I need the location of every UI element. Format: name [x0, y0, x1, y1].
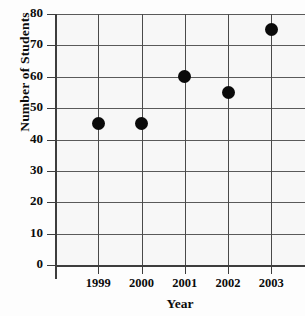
y-tick-label: 20	[3, 193, 43, 209]
data-point	[222, 86, 235, 99]
y-tick-label: 60	[3, 68, 43, 84]
scatter-plot-figure: Number of Students Year 0102030405060708…	[0, 0, 305, 316]
gridline-horizontal	[55, 45, 305, 46]
x-tick-label: 2002	[205, 276, 251, 291]
x-axis-title: Year	[55, 296, 305, 312]
y-tick-mark	[47, 108, 55, 109]
y-tick-mark	[47, 45, 55, 46]
y-tick-label: 10	[3, 225, 43, 241]
gridline-horizontal	[55, 140, 305, 141]
plot-area	[55, 14, 305, 265]
gridline-horizontal	[55, 108, 305, 109]
y-axis-line	[55, 14, 57, 279]
gridline-horizontal	[55, 234, 305, 235]
data-point	[92, 117, 105, 130]
data-point	[265, 23, 278, 36]
gridline-horizontal	[55, 14, 305, 15]
x-tick-label: 1999	[75, 276, 121, 291]
gridline-vertical	[185, 14, 186, 265]
x-tick-label: 2003	[248, 276, 294, 291]
y-tick-mark	[47, 14, 55, 15]
y-tick-label: 40	[3, 131, 43, 147]
gridline-vertical	[271, 14, 272, 265]
y-tick-label: 80	[3, 5, 43, 21]
y-tick-mark	[47, 265, 55, 266]
gridline-vertical	[142, 14, 143, 265]
gridline-vertical	[98, 14, 99, 265]
y-tick-mark	[47, 234, 55, 235]
y-tick-label: 70	[3, 36, 43, 52]
x-tick-mark	[228, 265, 229, 274]
y-tick-label: 0	[3, 256, 43, 272]
y-tick-mark	[47, 202, 55, 203]
x-axis-line	[55, 265, 305, 267]
y-tick-label: 30	[3, 162, 43, 178]
x-tick-mark	[271, 265, 272, 274]
x-tick-mark	[142, 265, 143, 274]
x-tick-mark	[185, 265, 186, 274]
gridline-horizontal	[55, 171, 305, 172]
x-tick-mark	[98, 265, 99, 274]
x-tick-label: 2001	[162, 276, 208, 291]
gridline-vertical	[228, 14, 229, 265]
y-tick-mark	[47, 140, 55, 141]
y-tick-label: 50	[3, 99, 43, 115]
x-tick-label: 2000	[119, 276, 165, 291]
gridline-horizontal	[55, 202, 305, 203]
y-tick-mark	[47, 77, 55, 78]
y-tick-mark	[47, 171, 55, 172]
